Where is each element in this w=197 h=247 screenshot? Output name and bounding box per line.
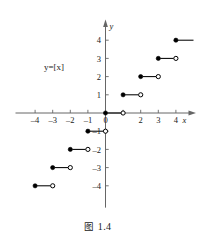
y-tick-label--4: –4 [92, 181, 102, 191]
open-endpoint-2 [86, 147, 90, 151]
open-endpoint-1 [68, 166, 72, 170]
plot-area: –4–3–2–102344321–1–2–3–4 x y y=[x] [0, 0, 196, 215]
closed-endpoint-6 [139, 75, 143, 79]
open-endpoint-0 [51, 184, 55, 188]
closed-endpoint-0 [33, 184, 37, 188]
x-tick-label-0: 0 [103, 115, 107, 125]
curve-equation-label: y=[x] [44, 62, 64, 72]
y-tick-label-1: 1 [97, 90, 101, 100]
caption-prefix: 图 [84, 221, 94, 232]
x-tick-label-4: 4 [174, 115, 179, 125]
x-tick-label--1: –1 [83, 115, 93, 125]
caption-number: 1.4 [98, 221, 112, 232]
figure-caption: 图 1.4 [0, 219, 196, 233]
closed-endpoint-1 [51, 166, 55, 170]
x-axis-arrow [189, 111, 197, 116]
x-axis-label: x [182, 115, 187, 125]
x-tick-label--2: –2 [65, 115, 75, 125]
y-tick-label-4: 4 [97, 35, 102, 45]
closed-endpoint-8 [174, 38, 178, 42]
x-tick-label-3: 3 [156, 115, 160, 125]
y-tick-label-2: 2 [97, 72, 101, 82]
y-tick-label--2: –2 [92, 145, 102, 155]
figure-container: –4–3–2–102344321–1–2–3–4 x y y=[x] 图 1.4 [0, 0, 196, 247]
y-tick-label--3: –3 [92, 163, 102, 173]
open-endpoint-3 [103, 129, 107, 133]
closed-endpoint-2 [68, 147, 72, 151]
closed-endpoint-7 [156, 56, 160, 60]
y-tick-label-3: 3 [97, 54, 101, 64]
x-tick-label--3: –3 [47, 115, 57, 125]
open-endpoint-7 [174, 56, 178, 60]
open-endpoint-5 [139, 93, 143, 97]
y-axis-arrow [103, 20, 108, 28]
y-axis-label: y [109, 21, 114, 31]
x-tick-label-2: 2 [139, 115, 143, 125]
closed-endpoint-3 [86, 129, 90, 133]
open-endpoint-6 [156, 75, 160, 79]
x-tick-label--4: –4 [30, 115, 40, 125]
open-endpoint-4 [121, 111, 125, 115]
closed-endpoint-5 [121, 93, 125, 97]
coordinate-plot: –4–3–2–102344321–1–2–3–4 x y y=[x] [0, 0, 196, 215]
y-tick-label--1: –1 [92, 126, 102, 136]
